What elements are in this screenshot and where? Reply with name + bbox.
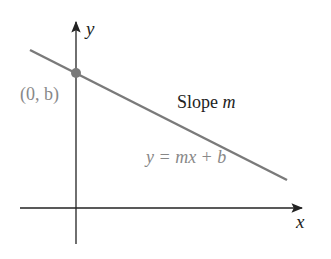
equation-label: y = mx + b (144, 147, 226, 167)
y-intercept-point (71, 68, 81, 78)
slope-intercept-diagram: y x (0, b) Slope m y = mx + b (0, 0, 331, 259)
y-axis-label: y (84, 18, 95, 39)
x-axis-label: x (295, 211, 305, 232)
slope-label: Slope m (177, 92, 236, 112)
point-label: (0, b) (20, 84, 59, 105)
